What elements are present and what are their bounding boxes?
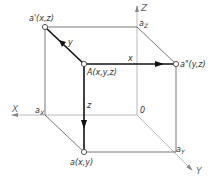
- x-axis-label: X: [11, 104, 19, 114]
- x-vector-label: x: [127, 54, 133, 63]
- projection-diagram: Z X Y 0 aZ aX aY a'(x,z) A(x,y,z) a"(y,z…: [0, 0, 220, 183]
- y-axis-label: Y: [196, 166, 203, 176]
- a-double-prime-label: a"(y,z): [180, 60, 206, 69]
- point-a: [81, 149, 86, 154]
- az-label: aZ: [139, 19, 149, 29]
- point-a-prime: [42, 24, 47, 29]
- a-label: a(x,y): [70, 158, 93, 167]
- z-arrowhead: [81, 120, 87, 129]
- a-prime-label: a'(x,z): [29, 14, 54, 23]
- y-vector: [45, 27, 84, 64]
- y-vector-label: y: [67, 38, 73, 47]
- y-axis: [137, 115, 192, 170]
- ax-label: aX: [35, 106, 45, 116]
- point-A: [81, 61, 86, 66]
- ay-label: aY: [176, 145, 186, 155]
- A-label: A(x,y,z): [86, 68, 117, 77]
- origin-label: 0: [140, 106, 145, 115]
- z-axis-label: Z: [140, 3, 148, 13]
- axes: [12, 6, 192, 170]
- point-a-double-prime: [173, 61, 178, 66]
- z-vector-label: z: [86, 101, 92, 110]
- x-arrowhead: [155, 61, 164, 67]
